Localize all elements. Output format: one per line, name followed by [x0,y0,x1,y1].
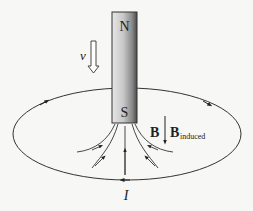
field-label: B [150,125,159,140]
velocity-arrow-icon [88,41,99,73]
magnet-induction-diagram: N S v B B induced I [0,0,253,211]
loop-arrow-left [40,101,47,105]
north-pole-label: N [119,19,129,34]
induced-subscript: induced [180,132,205,141]
induced-field-label: B [170,125,179,140]
velocity-label: v [80,48,86,63]
current-label: I [123,188,130,203]
south-pole-label: S [121,105,129,120]
